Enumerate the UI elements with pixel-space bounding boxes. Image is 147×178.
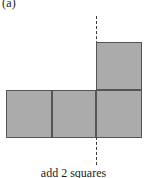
figure-panel: (a) add 2 squares bbox=[0, 0, 147, 178]
top-square-above-right bbox=[96, 42, 142, 90]
panel-label: (a) bbox=[2, 0, 16, 10]
figure-caption: add 2 squares bbox=[0, 166, 147, 178]
bottom-row-square-left bbox=[6, 90, 52, 138]
bottom-row-square-middle bbox=[52, 90, 96, 138]
bottom-row-square-right bbox=[96, 90, 142, 138]
